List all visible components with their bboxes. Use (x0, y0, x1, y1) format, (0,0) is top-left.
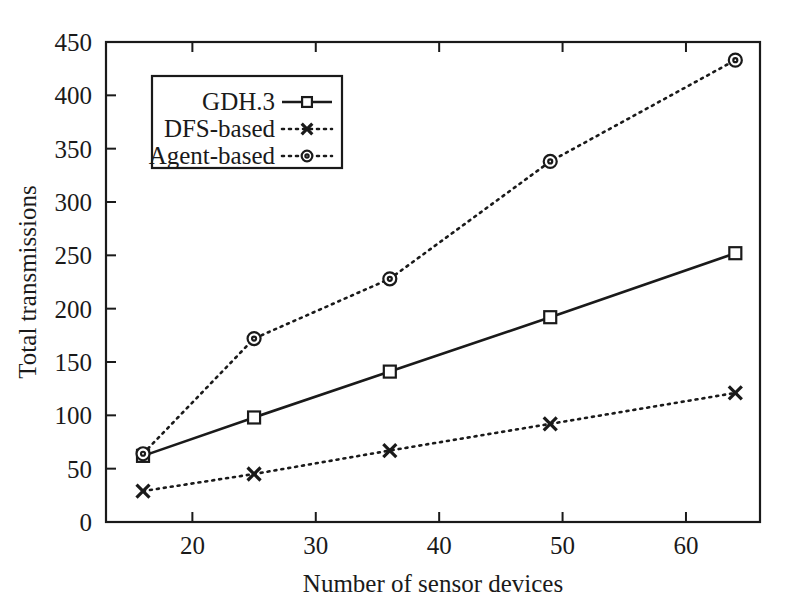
series-gdh-3 (137, 247, 741, 462)
x-tick-label: 40 (427, 532, 452, 559)
series-line (143, 253, 735, 456)
y-tick-label: 450 (55, 29, 93, 56)
y-tick-label: 50 (67, 456, 92, 483)
circle-marker-dot (733, 58, 737, 62)
series-line (143, 393, 735, 491)
circle-marker-dot (252, 337, 256, 341)
y-tick-label: 250 (55, 242, 93, 269)
x-axis-title: Number of sensor devices (303, 570, 563, 597)
square-marker (544, 311, 556, 323)
y-tick-label: 200 (55, 296, 93, 323)
chart-figure: 050100150200250300350400450 2030405060 N… (0, 0, 807, 614)
x-tick-label: 30 (303, 532, 328, 559)
chart-legend: GDH.3DFS-basedAgent-based (149, 76, 342, 169)
y-tick-label: 300 (55, 189, 93, 216)
line-chart-canvas: 050100150200250300350400450 2030405060 N… (0, 0, 807, 614)
circle-marker-dot (141, 452, 145, 456)
legend-label: GDH.3 (202, 88, 275, 115)
y-tick-label: 150 (55, 349, 93, 376)
square-marker (248, 411, 260, 423)
square-marker (384, 366, 396, 378)
y-tick-label: 100 (55, 402, 93, 429)
circle-marker-dot (305, 154, 308, 157)
x-tick-label: 20 (180, 532, 205, 559)
legend-label: DFS-based (164, 115, 276, 142)
circle-marker-dot (388, 277, 392, 281)
square-marker (729, 247, 741, 259)
y-tick-label: 350 (55, 136, 93, 163)
legend-label: Agent-based (149, 142, 276, 169)
y-tick-label: 0 (80, 509, 93, 536)
series-dfs-based (137, 386, 742, 497)
x-tick-label: 60 (673, 532, 698, 559)
x-tick-label: 50 (550, 532, 575, 559)
y-tick-label: 400 (55, 82, 93, 109)
square-marker (302, 97, 312, 107)
y-axis-title: Total transmissions (14, 185, 41, 378)
circle-marker-dot (548, 159, 552, 163)
